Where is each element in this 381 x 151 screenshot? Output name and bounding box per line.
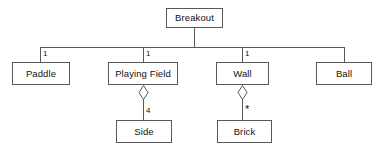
class-box-paddle-label: Paddle <box>26 69 56 79</box>
multiplicity-playing-field-side: 4 <box>146 107 150 115</box>
class-box-side[interactable]: Side <box>116 120 172 143</box>
edge-trunk-horizontal <box>40 47 345 48</box>
class-box-wall[interactable]: Wall <box>216 62 269 85</box>
multiplicity-breakout-paddle: 1 <box>43 50 47 58</box>
edge-drop-paddle <box>40 47 41 62</box>
edge-drop-ball <box>344 47 345 62</box>
class-box-paddle[interactable]: Paddle <box>12 62 70 85</box>
aggregation-diamond-wall <box>237 85 248 100</box>
multiplicity-wall-brick: * <box>245 104 249 115</box>
class-box-brick-label: Brick <box>234 127 256 137</box>
class-box-wall-label: Wall <box>233 69 252 79</box>
multiplicity-breakout-wall: 1 <box>245 50 249 58</box>
edge-drop-wall <box>242 47 243 62</box>
uml-class-diagram: Breakout 1 1 1 Paddle Playing Field Wall… <box>0 0 381 151</box>
class-box-brick[interactable]: Brick <box>217 120 272 143</box>
aggregation-diamond-playing-field <box>138 85 149 100</box>
class-box-ball[interactable]: Ball <box>316 62 372 85</box>
edge-drop-playing-field <box>143 47 144 62</box>
class-box-ball-label: Ball <box>336 69 352 79</box>
class-box-playing-field[interactable]: Playing Field <box>108 62 178 85</box>
edge-wall-brick <box>242 99 243 120</box>
class-box-breakout-label: Breakout <box>175 13 214 23</box>
class-box-side-label: Side <box>134 127 153 137</box>
class-box-playing-field-label: Playing Field <box>115 69 171 79</box>
multiplicity-breakout-playing-field: 1 <box>146 50 150 58</box>
edge-breakout-stem <box>194 28 195 47</box>
class-box-breakout[interactable]: Breakout <box>166 8 223 28</box>
edge-playing-field-side <box>143 99 144 120</box>
